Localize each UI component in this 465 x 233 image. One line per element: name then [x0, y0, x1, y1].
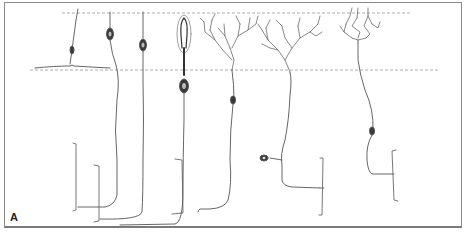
terminal-2: [94, 165, 99, 222]
axon-terminals: [73, 143, 398, 222]
terminal-1: [73, 143, 76, 211]
panel-label: A: [10, 212, 18, 223]
terminal-4: [319, 158, 323, 215]
terminal-5: [392, 150, 398, 201]
cell-7-bipolar: [340, 8, 394, 174]
cell-1-horizontal: [35, 9, 110, 68]
cell-2-rod: [78, 12, 118, 207]
cell-3-rod: [100, 12, 147, 219]
terminal-3: [172, 159, 183, 214]
cell-4-cone: [120, 15, 191, 225]
cell-5-bipolar: [198, 14, 258, 212]
cell-6-bipolar: [258, 16, 322, 188]
retinal-neurons-diagram: [0, 0, 465, 233]
